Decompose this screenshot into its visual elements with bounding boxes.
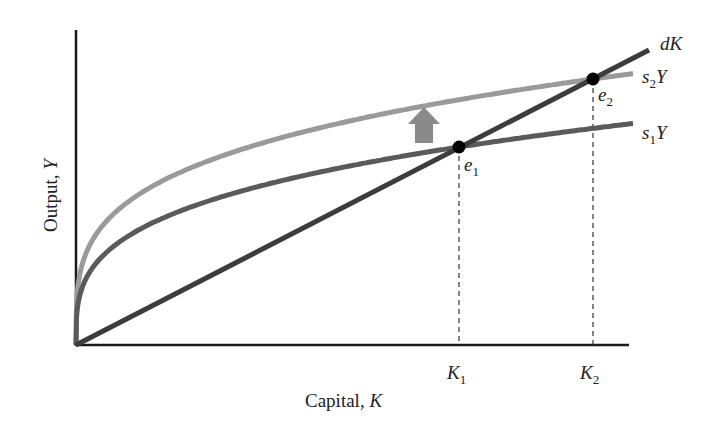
y-axis-title: Output, Y (40, 157, 61, 232)
e1-label: e1 (464, 154, 479, 179)
k2-tick-label: K2 (579, 362, 599, 387)
e2-label: e2 (598, 84, 613, 109)
s1y-curve (76, 124, 633, 346)
equilibrium-e1-dot (453, 141, 466, 154)
s2y-label: s2Y (642, 66, 669, 91)
s1y-label: s1Y (642, 122, 669, 147)
dk-line (76, 50, 649, 345)
up-arrow-icon (408, 107, 440, 143)
k1-tick-label: K1 (446, 362, 466, 387)
solow-diagram: e1 e2 dK s2Y s1Y K1 K2 Capital, K Output… (0, 0, 726, 427)
dk-label: dK (660, 33, 684, 54)
x-axis-title: Capital, K (305, 390, 383, 411)
